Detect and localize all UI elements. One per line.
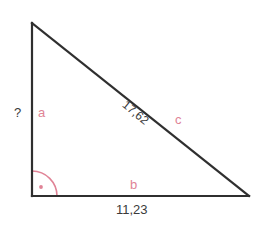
side-b-name-label: b [130,178,137,191]
right-angle-dot [39,185,43,189]
side-a-name-label: a [38,106,45,119]
hypotenuse-name-label: c [175,113,182,126]
triangle-figure: ? a b 11,23 17,62 c [0,0,261,226]
side-a-value-label: ? [14,106,21,119]
right-angle-arc [32,171,57,196]
side-b-value-label: 11,23 [116,203,148,216]
